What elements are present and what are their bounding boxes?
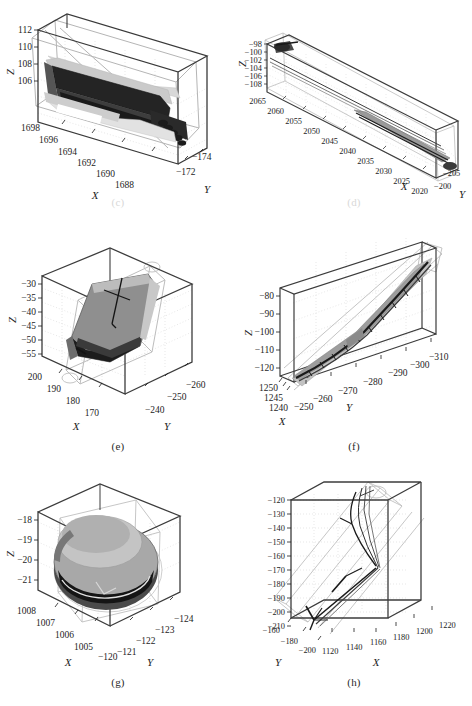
svg-text:1005: 1005 xyxy=(74,642,93,652)
svg-text:−124: −124 xyxy=(174,614,194,624)
panel-f-ylabel: Y xyxy=(346,401,354,413)
svg-text:1692: 1692 xyxy=(77,158,96,168)
panel-g-plot: −18 −19 −20 −21 Z 1008 1007 1006 1005 X … xyxy=(0,470,236,682)
svg-text:1140: 1140 xyxy=(346,643,362,652)
svg-text:2050: 2050 xyxy=(303,127,320,136)
panel-c-surfaces xyxy=(44,56,188,146)
svg-text:−35: −35 xyxy=(21,293,36,303)
panel-e: −30 −35 −40 −45 −50 −55 Z 200 190 180 17… xyxy=(0,228,236,468)
svg-text:−240: −240 xyxy=(145,405,165,415)
panel-f-plot: −80 −90 −100 −110 −120 Z 1250 1245 1240 … xyxy=(236,228,472,443)
svg-text:1180: 1180 xyxy=(393,633,409,642)
svg-text:−110: −110 xyxy=(255,345,275,355)
svg-text:180: 180 xyxy=(66,396,81,406)
svg-text:−30: −30 xyxy=(21,279,36,289)
svg-text:−280: −280 xyxy=(363,377,383,387)
svg-text:1120: 1120 xyxy=(322,647,338,656)
svg-text:−40: −40 xyxy=(21,307,36,317)
svg-text:2045: 2045 xyxy=(321,137,338,146)
panel-f-zlabel: Z xyxy=(242,329,254,336)
svg-text:−200: −200 xyxy=(434,182,451,191)
panel-c-z-ticklabels: 112 110 108 106 xyxy=(18,25,33,86)
svg-text:−100: −100 xyxy=(254,327,274,337)
svg-text:−122: −122 xyxy=(136,636,156,646)
svg-text:2020: 2020 xyxy=(411,187,428,196)
panel-h-y-ticklabels: −160 −180 −200 xyxy=(263,626,316,655)
panel-e-y-ticklabels: −260 −250 −240 xyxy=(145,380,206,415)
panel-g-ylabel: Y xyxy=(147,656,155,668)
panel-g-ellipsoid xyxy=(54,515,158,610)
svg-text:1696: 1696 xyxy=(39,135,58,145)
svg-text:1006: 1006 xyxy=(55,630,74,640)
svg-text:−80: −80 xyxy=(259,291,274,301)
panel-e-caption: (e) xyxy=(0,440,236,452)
panel-g-xlabel: X xyxy=(64,656,73,668)
panel-g-z-ticklabels: −18 −19 −20 −21 xyxy=(17,515,32,585)
panel-h: −120 −130 −140 −150 −160 −170 −180 −190 … xyxy=(236,470,472,706)
svg-text:1698: 1698 xyxy=(21,123,40,133)
panel-e-zlabel: Z xyxy=(6,316,18,323)
svg-text:−120: −120 xyxy=(98,652,118,662)
svg-text:−200: −200 xyxy=(268,608,285,617)
panel-g: −18 −19 −20 −21 Z 1008 1007 1006 1005 X … xyxy=(0,470,236,706)
panel-f-x-ticklabels: 1250 1245 1240 xyxy=(259,383,288,413)
svg-text:1245: 1245 xyxy=(264,393,283,403)
panel-e-ylabel: Y xyxy=(164,420,172,432)
panel-d: −98 −100 −102 −104 −106 −108 Z 2065 2060… xyxy=(236,0,472,220)
panel-c-zlabel: Z xyxy=(4,68,16,75)
svg-text:−300: −300 xyxy=(410,360,430,370)
svg-text:−160: −160 xyxy=(268,552,285,561)
panel-h-xlabel: X xyxy=(372,656,381,668)
panel-h-caption: (h) xyxy=(236,676,472,688)
svg-text:−45: −45 xyxy=(21,321,36,331)
panel-d-xlabel: X xyxy=(400,180,409,192)
svg-text:112: 112 xyxy=(18,25,32,35)
svg-text:−190: −190 xyxy=(268,594,285,603)
panel-e-xlabel: X xyxy=(72,420,81,432)
panel-g-y-ticklabels: −124 −123 −122 −121 −120 xyxy=(98,614,194,662)
svg-text:−174: −174 xyxy=(192,152,212,162)
svg-text:−172: −172 xyxy=(176,167,196,177)
svg-text:200: 200 xyxy=(28,372,43,382)
panel-g-caption: (g) xyxy=(0,676,236,688)
panel-d-caption: (d) xyxy=(236,196,472,208)
svg-text:2065: 2065 xyxy=(249,97,266,106)
panel-h-ylabel: Y xyxy=(275,656,283,668)
svg-text:−170: −170 xyxy=(268,566,285,575)
svg-text:−205: −205 xyxy=(443,169,460,178)
svg-text:1200: 1200 xyxy=(416,627,433,636)
svg-text:1220: 1220 xyxy=(439,621,456,630)
svg-text:1694: 1694 xyxy=(58,147,77,157)
svg-text:−180: −180 xyxy=(268,580,285,589)
panel-e-plot: −30 −35 −40 −45 −50 −55 Z 200 190 180 17… xyxy=(0,228,236,443)
svg-text:−140: −140 xyxy=(268,524,285,533)
svg-text:1240: 1240 xyxy=(269,403,288,413)
panel-h-plot: −120 −130 −140 −150 −160 −170 −180 −190 … xyxy=(236,470,472,682)
panel-c: 112 110 108 106 Z 1698 1696 1694 1692 16… xyxy=(0,0,236,220)
svg-text:−121: −121 xyxy=(117,647,137,657)
svg-text:190: 190 xyxy=(47,384,62,394)
svg-text:2055: 2055 xyxy=(285,117,302,126)
svg-text:2030: 2030 xyxy=(375,167,392,176)
svg-text:−310: −310 xyxy=(429,352,449,362)
svg-text:106: 106 xyxy=(18,76,33,86)
svg-text:108: 108 xyxy=(18,59,33,69)
svg-text:−150: −150 xyxy=(268,538,285,547)
panel-e-x-ticklabels: 200 190 180 170 xyxy=(28,372,100,418)
svg-text:1007: 1007 xyxy=(36,618,55,628)
panel-c-ylabel: Y xyxy=(204,183,212,195)
svg-text:−55: −55 xyxy=(21,349,36,359)
svg-text:−270: −270 xyxy=(338,386,358,396)
panel-h-z-ticklabels: −120 −130 −140 −150 −160 −170 −180 −190 … xyxy=(268,496,285,631)
svg-text:−130: −130 xyxy=(268,510,285,519)
svg-text:1688: 1688 xyxy=(115,180,134,190)
svg-text:−160: −160 xyxy=(263,626,280,635)
panel-f-z-ticklabels: −80 −90 −100 −110 −120 xyxy=(254,291,274,373)
svg-text:−108: −108 xyxy=(245,80,262,89)
panel-c-x-ticklabels: 1698 1696 1694 1692 1690 1688 xyxy=(21,123,134,190)
svg-text:110: 110 xyxy=(18,42,32,52)
panel-f: −80 −90 −100 −110 −120 Z 1250 1245 1240 … xyxy=(236,228,472,468)
svg-text:−250: −250 xyxy=(167,392,187,402)
svg-text:−20: −20 xyxy=(17,555,32,565)
panel-c-caption: (c) xyxy=(0,196,236,208)
